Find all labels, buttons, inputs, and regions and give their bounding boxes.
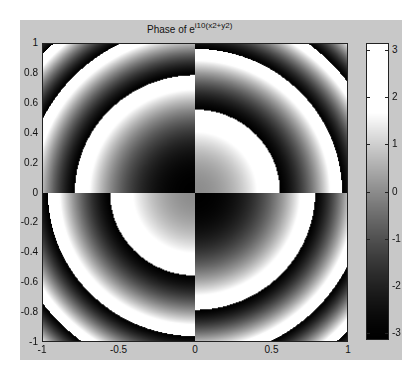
- y-tick-label: 0.8: [8, 67, 38, 78]
- colorbar-tick-mark: [385, 286, 388, 287]
- colorbar-tick-mark: [367, 286, 370, 287]
- colorbar-tick-mark: [385, 239, 388, 240]
- colorbar-tick-label: 3: [392, 44, 398, 55]
- title-exponent: i10(x2+y2): [195, 21, 233, 30]
- y-tick-label: 1: [8, 37, 38, 48]
- y-tick-label: 0.6: [8, 97, 38, 108]
- colorbar-tick-mark: [367, 144, 370, 145]
- phase-heatmap-axes: [42, 43, 348, 342]
- colorbar-tick-label: 2: [392, 91, 398, 102]
- colorbar-tick-mark: [367, 239, 370, 240]
- y-tick-label: -0.4: [8, 246, 38, 257]
- y-tick-label: 0.2: [8, 157, 38, 168]
- colorbar-tick-mark: [367, 192, 370, 193]
- y-tick-label: -0.8: [8, 306, 38, 317]
- y-tick-label: 0.4: [8, 127, 38, 138]
- y-tick-label: 0: [8, 187, 38, 198]
- colorbar-tick-mark: [367, 333, 370, 334]
- y-tick-label: -0.2: [8, 216, 38, 227]
- colorbar-tick-mark: [367, 50, 370, 51]
- x-tick-label: 0.5: [257, 344, 287, 355]
- x-tick-label: 0: [180, 344, 210, 355]
- colorbar-tick-mark: [385, 333, 388, 334]
- colorbar-tick-label: -3: [392, 327, 401, 338]
- y-tick-label: -0.6: [8, 276, 38, 287]
- phase-heatmap-image: [43, 44, 347, 341]
- colorbar-tick-mark: [385, 144, 388, 145]
- colorbar-tick-label: -1: [392, 233, 401, 244]
- x-tick-label: -0.5: [104, 344, 134, 355]
- colorbar-tick-label: 1: [392, 138, 398, 149]
- chart-title: Phase of ei10(x2+y2): [147, 22, 232, 35]
- colorbar-tick-mark: [367, 97, 370, 98]
- x-tick-label: 1: [333, 344, 363, 355]
- colorbar-tick-label: -2: [392, 280, 401, 291]
- colorbar-tick-label: 0: [392, 186, 398, 197]
- colorbar-tick-mark: [385, 50, 388, 51]
- colorbar-tick-mark: [385, 97, 388, 98]
- title-text: Phase of e: [147, 24, 195, 35]
- x-tick-label: -1: [27, 344, 57, 355]
- colorbar-tick-mark: [385, 192, 388, 193]
